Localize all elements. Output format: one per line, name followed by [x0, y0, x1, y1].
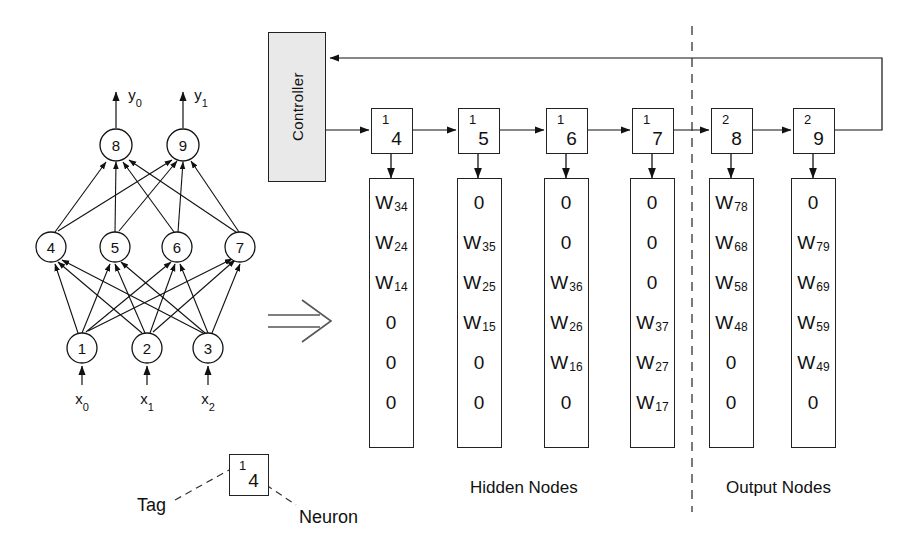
weight-value: 0 — [647, 193, 658, 212]
node-box-9[interactable]: 2 9 — [793, 108, 835, 154]
weight-value: W — [375, 233, 393, 252]
weight-cell: 0 — [710, 342, 753, 382]
weight-subscript: 15 — [482, 321, 495, 333]
weight-cell: 0 — [370, 342, 413, 382]
weight-cell: 0 — [792, 382, 835, 422]
weight-value: 0 — [474, 353, 485, 372]
weight-value: W — [715, 273, 733, 292]
figure-canvas: 1 2 3 4 5 6 7 8 9 y0 y1 x0 x1 x2 Control… — [0, 0, 909, 554]
weight-value: W — [636, 393, 654, 412]
output-signal-y1: y1 — [194, 86, 208, 106]
diagram-vector-layer — [0, 0, 909, 554]
node-box-8-neuron: 8 — [731, 129, 742, 148]
weight-cell: W59 — [792, 302, 835, 342]
weight-cell: W26 — [545, 302, 588, 342]
legend-example-neuron: 4 — [248, 471, 259, 490]
weight-value: W — [636, 353, 654, 372]
input-signal-x0-name: x — [75, 390, 83, 407]
hidden-nodes-caption: Hidden Nodes — [470, 478, 578, 498]
node-box-6-neuron: 6 — [566, 129, 577, 148]
weight-cell: W15 — [458, 302, 501, 342]
weight-value: W — [375, 273, 393, 292]
weight-subscript: 69 — [816, 281, 829, 293]
weight-cell: W48 — [710, 302, 753, 342]
output-signal-y1-sub: 1 — [202, 97, 208, 109]
weight-cell: 0 — [370, 302, 413, 342]
implication-arrow-icon — [268, 300, 331, 342]
weight-value: W — [636, 313, 654, 332]
weight-cell: 0 — [545, 382, 588, 422]
weight-cell: 0 — [631, 182, 674, 222]
weight-column-8[interactable]: W78 W68 W58 W48 0 0 — [709, 178, 754, 448]
output-signal-y1-name: y — [194, 86, 202, 103]
legend-tag-label: Tag — [137, 495, 166, 516]
weight-value: 0 — [561, 193, 572, 212]
weight-cell: W25 — [458, 262, 501, 302]
weight-column-4[interactable]: W34 W24 W14 0 0 0 — [369, 178, 414, 448]
node-box-4-neuron: 4 — [391, 129, 402, 148]
input-signal-x2-name: x — [201, 390, 209, 407]
weight-column-6[interactable]: 0 0 W36 W26 W16 0 — [544, 178, 589, 448]
controller-label: Controller — [289, 72, 306, 141]
node-box-6[interactable]: 1 6 — [546, 108, 588, 154]
net-node-circles — [36, 129, 255, 363]
weight-subscript: 78 — [734, 201, 747, 213]
weight-cell: W78 — [710, 182, 753, 222]
weight-subscript: 58 — [734, 281, 747, 293]
weight-subscript: 35 — [482, 241, 495, 253]
legend-example-box: 1 4 — [229, 454, 269, 496]
weight-cell: 0 — [631, 262, 674, 302]
node-box-9-neuron: 9 — [813, 129, 824, 148]
input-signal-x0-sub: 0 — [83, 401, 89, 413]
node-box-4-tag: 1 — [382, 113, 389, 126]
weight-value: W — [463, 233, 481, 252]
node-box-5[interactable]: 1 5 — [458, 108, 500, 154]
weight-cell: 0 — [710, 382, 753, 422]
node-box-4[interactable]: 1 4 — [371, 108, 413, 154]
node-box-7[interactable]: 1 7 — [632, 108, 674, 154]
output-nodes-caption: Output Nodes — [726, 478, 831, 498]
weight-value: 0 — [474, 193, 485, 212]
weight-cell: 0 — [792, 182, 835, 222]
weight-value: W — [715, 193, 733, 212]
node-box-6-tag: 1 — [557, 113, 564, 126]
output-signal-y0-sub: 0 — [136, 97, 142, 109]
node-box-9-tag: 2 — [804, 113, 811, 126]
node-box-5-tag: 1 — [469, 113, 476, 126]
weight-cell: W37 — [631, 302, 674, 342]
weight-value: W — [375, 193, 393, 212]
weight-cell: W58 — [710, 262, 753, 302]
weight-value: W — [715, 313, 733, 332]
weight-subscript: 49 — [816, 361, 829, 373]
weight-subscript: 68 — [734, 241, 747, 253]
node-box-7-tag: 1 — [643, 113, 650, 126]
output-signal-y0: y0 — [128, 86, 142, 106]
weight-cell: W36 — [545, 262, 588, 302]
weight-value: W — [550, 353, 568, 372]
weight-value: W — [463, 273, 481, 292]
node-weight-link-arrows — [391, 154, 813, 178]
net-edges-hidden-output — [55, 160, 239, 232]
weight-subscript: 14 — [394, 281, 407, 293]
weight-cell: W79 — [792, 222, 835, 262]
weight-column-9[interactable]: 0 W79 W69 W59 W49 0 — [791, 178, 836, 448]
weight-cell: W16 — [545, 342, 588, 382]
weight-subscript: 59 — [816, 321, 829, 333]
weight-column-7[interactable]: 0 0 0 W37 W27 W17 — [630, 178, 675, 448]
weight-column-5[interactable]: 0 W35 W25 W15 0 0 — [457, 178, 502, 448]
weight-cell: W27 — [631, 342, 674, 382]
output-signal-y0-name: y — [128, 86, 136, 103]
weight-cell: W24 — [370, 222, 413, 262]
node-box-8-tag: 2 — [722, 113, 729, 126]
weight-subscript: 48 — [734, 321, 747, 333]
controller-box[interactable]: Controller — [268, 32, 326, 182]
weight-value: W — [797, 233, 815, 252]
weight-subscript: 26 — [569, 321, 582, 333]
weight-subscript: 17 — [655, 401, 668, 413]
weight-cell: 0 — [458, 382, 501, 422]
node-box-8[interactable]: 2 8 — [711, 108, 753, 154]
weight-value: 0 — [386, 393, 397, 412]
weight-value: 0 — [647, 233, 658, 252]
weight-cell: W14 — [370, 262, 413, 302]
weight-value: 0 — [386, 353, 397, 372]
